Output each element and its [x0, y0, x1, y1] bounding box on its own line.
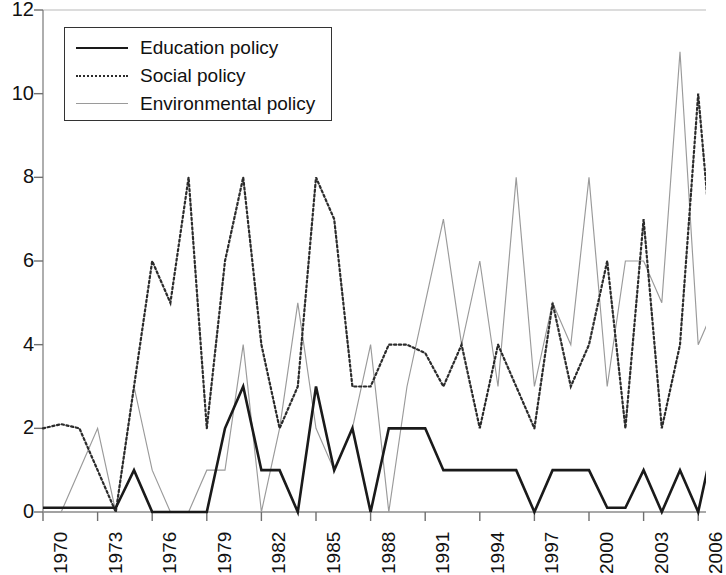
y-tick-label: 10: [0, 83, 34, 103]
series-line-education-policy: [43, 387, 706, 513]
x-tick-label: 1979: [215, 532, 234, 574]
y-tick-label: 6: [0, 250, 34, 270]
legend-item-social: Social policy: [74, 62, 246, 90]
legend-line-sample-thin-icon: [74, 97, 130, 111]
x-tick-label: 1982: [269, 532, 288, 574]
y-tick-label: 12: [0, 0, 34, 19]
y-tick-label: 2: [0, 417, 34, 437]
x-tick-label: 1997: [542, 532, 561, 574]
legend-label-education: Education policy: [140, 37, 278, 59]
legend-label-social: Social policy: [140, 65, 246, 87]
x-tick-label: 1985: [324, 532, 343, 574]
x-tick-label: 1991: [433, 532, 452, 574]
y-tick-label: 8: [0, 166, 34, 186]
x-tick-label: 1994: [488, 532, 507, 574]
x-tick-label: 1973: [106, 532, 125, 574]
y-tick-label: 0: [0, 501, 34, 521]
x-tick-label: 1976: [160, 532, 179, 574]
y-tick-label: 4: [0, 334, 34, 354]
legend-line-sample-solid-icon: [74, 41, 130, 55]
x-tick-label: 1988: [379, 532, 398, 574]
x-tick-label: 2000: [597, 532, 616, 574]
legend-item-environmental: Environmental policy: [74, 90, 315, 118]
x-tick-label: 1970: [51, 532, 70, 574]
x-tick-label: 2006: [706, 532, 725, 574]
legend-label-environmental: Environmental policy: [140, 93, 315, 115]
x-tick-label: 2003: [652, 532, 671, 574]
legend-line-sample-dotted-icon: [74, 69, 130, 83]
chart-legend: Education policy Social policy Environme…: [64, 27, 332, 121]
series-line-social-policy: [43, 94, 706, 512]
legend-item-education: Education policy: [74, 34, 278, 62]
